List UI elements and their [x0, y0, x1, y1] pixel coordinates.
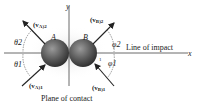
theta2-label: θ2 — [14, 38, 22, 47]
vB1-label: (vB)1 — [92, 84, 106, 92]
plane-of-contact-label: Plane of contact — [41, 94, 93, 103]
vB2-label: (vB)2 — [90, 16, 104, 24]
sphere-a-label: A — [50, 33, 56, 42]
impact-diagram: y x A B (vA)2 (vA)1 (vB)2 (vB)1 θ2 θ1 φ2… — [0, 0, 197, 107]
sphere-b — [69, 39, 97, 67]
x-axis-label: x — [187, 49, 192, 58]
sphere-b-label: B — [83, 33, 88, 42]
phi1-label: φ1 — [108, 59, 116, 68]
phi2-label: φ2 — [112, 40, 120, 49]
diagram-canvas: y x A B (vA)2 (vA)1 (vB)2 (vB)1 θ2 θ1 φ2… — [0, 0, 197, 107]
sphere-a — [41, 39, 69, 67]
vA1-label: (vA)1 — [29, 82, 43, 90]
line-of-impact-label: Line of impact — [126, 43, 174, 52]
y-axis-label: y — [65, 2, 70, 11]
vA2-label: (vA)2 — [33, 21, 47, 29]
theta1-label: θ1 — [14, 60, 22, 69]
